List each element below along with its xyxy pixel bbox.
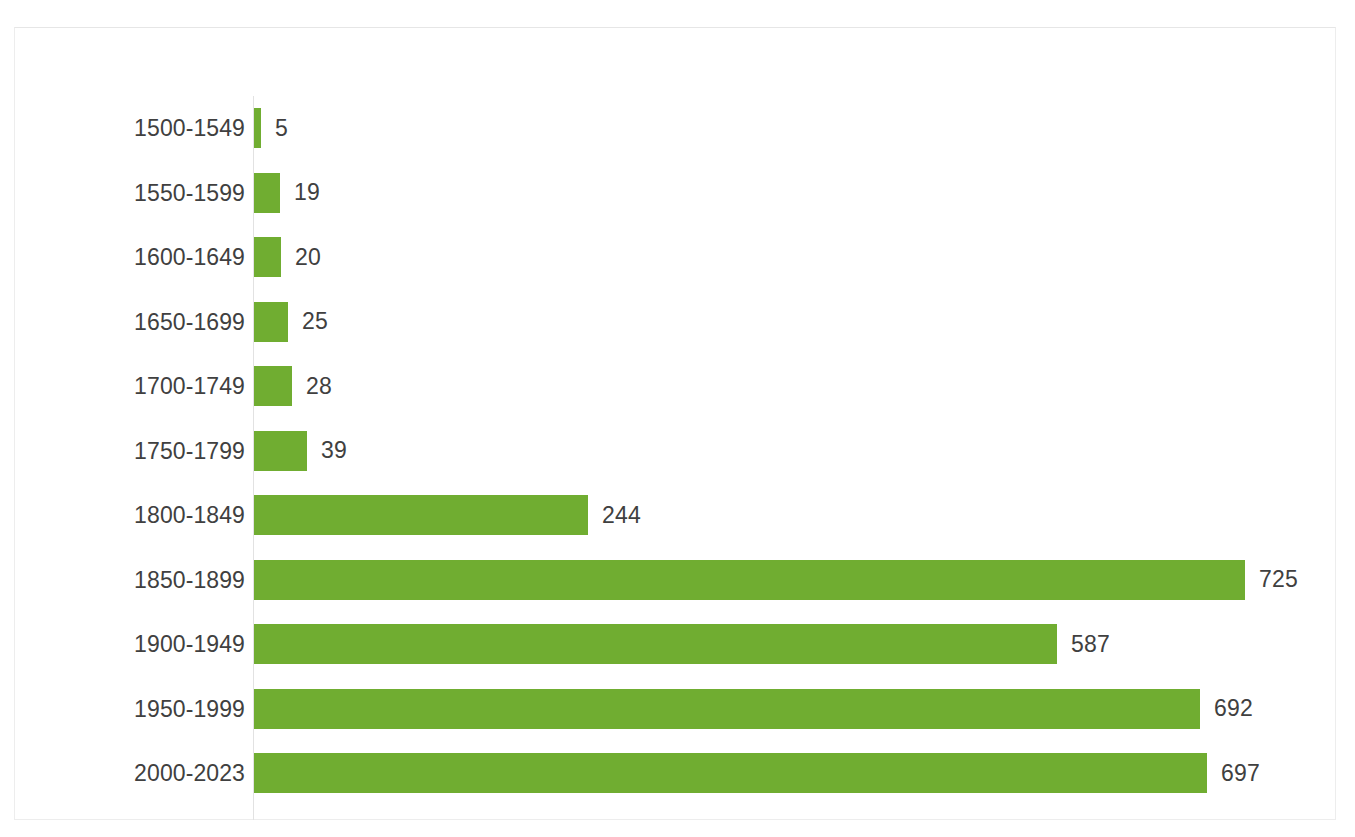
- bar-value-label: 20: [295, 244, 321, 271]
- bar-value-label: 692: [1214, 695, 1253, 722]
- bar[interactable]: [254, 302, 288, 342]
- bar-chart: 1500-1549 5 1550-1599 19 1600-1649 20 16…: [0, 0, 1355, 837]
- bar-track: 697: [254, 753, 1260, 793]
- category-label: 1500-1549: [134, 115, 245, 142]
- bar-track: 28: [254, 366, 332, 406]
- bar-track: 39: [254, 431, 347, 471]
- bar-track: 692: [254, 689, 1253, 729]
- bar-value-label: 19: [294, 179, 320, 206]
- category-label: 2000-2023: [134, 760, 245, 787]
- table-row: 1600-1649 20: [0, 225, 1355, 290]
- bar-track: 19: [254, 173, 320, 213]
- bar-value-label: 5: [275, 115, 288, 142]
- table-row: 2000-2023 697: [0, 741, 1355, 806]
- table-row: 1750-1799 39: [0, 419, 1355, 484]
- bar-track: 25: [254, 302, 328, 342]
- table-row: 1850-1899 725: [0, 548, 1355, 613]
- bar[interactable]: [254, 689, 1200, 729]
- bar-value-label: 39: [321, 437, 347, 464]
- bar-track: 725: [254, 560, 1298, 600]
- bar-value-label: 697: [1221, 760, 1260, 787]
- category-label: 1700-1749: [134, 373, 245, 400]
- bar-track: 244: [254, 495, 641, 535]
- bar-value-label: 725: [1259, 566, 1298, 593]
- bar[interactable]: [254, 431, 307, 471]
- bar-track: 5: [254, 108, 288, 148]
- category-label: 1650-1699: [134, 308, 245, 335]
- bar-value-label: 244: [602, 502, 641, 529]
- bar-track: 587: [254, 624, 1110, 664]
- category-label: 1800-1849: [134, 502, 245, 529]
- bar-track: 20: [254, 237, 321, 277]
- table-row: 1700-1749 28: [0, 354, 1355, 419]
- table-row: 1550-1599 19: [0, 161, 1355, 226]
- bar-value-label: 25: [302, 308, 328, 335]
- category-label: 1600-1649: [134, 244, 245, 271]
- bar[interactable]: [254, 753, 1207, 793]
- table-row: 1650-1699 25: [0, 290, 1355, 355]
- bar[interactable]: [254, 495, 588, 535]
- table-row: 1800-1849 244: [0, 483, 1355, 548]
- bar[interactable]: [254, 108, 261, 148]
- table-row: 1500-1549 5: [0, 96, 1355, 161]
- bar[interactable]: [254, 560, 1245, 600]
- category-label: 1900-1949: [134, 631, 245, 658]
- bar[interactable]: [254, 624, 1057, 664]
- table-row: 1950-1999 692: [0, 677, 1355, 742]
- table-row: 1900-1949 587: [0, 612, 1355, 677]
- bar[interactable]: [254, 173, 280, 213]
- bar[interactable]: [254, 237, 281, 277]
- category-label: 1750-1799: [134, 437, 245, 464]
- bar-value-label: 587: [1071, 631, 1110, 658]
- category-label: 1850-1899: [134, 566, 245, 593]
- bar-rows: 1500-1549 5 1550-1599 19 1600-1649 20 16…: [0, 96, 1355, 806]
- category-label: 1550-1599: [134, 179, 245, 206]
- bar[interactable]: [254, 366, 292, 406]
- category-label: 1950-1999: [134, 695, 245, 722]
- bar-value-label: 28: [306, 373, 332, 400]
